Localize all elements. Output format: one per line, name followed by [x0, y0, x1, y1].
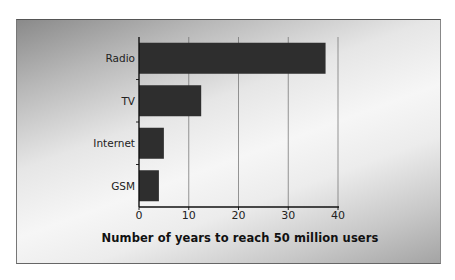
bar-gsm — [139, 170, 159, 201]
bar-tv — [139, 85, 201, 116]
category-label-internet: Internet — [93, 137, 135, 149]
x-tick-label: 30 — [281, 209, 295, 222]
category-label-tv: TV — [121, 95, 135, 107]
category-label-radio: Radio — [105, 52, 135, 64]
category-label-gsm: GSM — [111, 180, 135, 192]
x-tick-label: 40 — [331, 209, 345, 222]
x-axis-title: Number of years to reach 50 million user… — [0, 231, 455, 245]
bar-radio — [139, 43, 326, 74]
x-tick-label: 10 — [182, 209, 196, 222]
bars — [139, 43, 326, 202]
x-tick-label: 0 — [136, 209, 143, 222]
bar-internet — [139, 128, 164, 159]
x-tick-label: 20 — [232, 209, 246, 222]
